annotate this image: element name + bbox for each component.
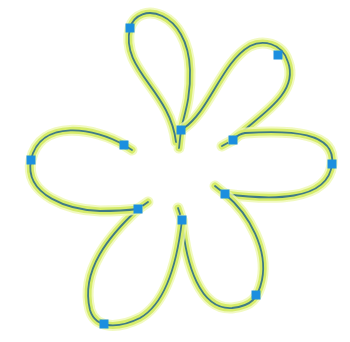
control-point-inner-upper-right[interactable] bbox=[229, 136, 238, 145]
control-point-inner-bottom-left[interactable] bbox=[134, 205, 143, 214]
control-point-inner-top[interactable] bbox=[177, 126, 186, 135]
petal-glow-outer bbox=[178, 194, 263, 308]
petal-curve[interactable] bbox=[88, 202, 182, 325]
flower-diagram bbox=[0, 0, 350, 342]
control-point-outer-right[interactable] bbox=[328, 160, 337, 169]
control-point-inner-bottom-right[interactable] bbox=[178, 216, 187, 225]
control-point-outer-bottom-right[interactable] bbox=[252, 291, 261, 300]
control-point-inner-left[interactable] bbox=[120, 141, 129, 150]
petal-bottom-right bbox=[178, 194, 263, 308]
petals-group bbox=[30, 13, 332, 325]
control-point-outer-bottom-left[interactable] bbox=[100, 320, 109, 329]
control-point-outer-top[interactable] bbox=[126, 24, 135, 33]
control-point-outer-left[interactable] bbox=[27, 156, 36, 165]
petal-glow-outer bbox=[88, 202, 182, 325]
control-point-inner-right[interactable] bbox=[221, 190, 230, 199]
petal-bottom-left bbox=[88, 202, 182, 325]
petal-glow bbox=[88, 202, 182, 325]
control-point-outer-upper-right[interactable] bbox=[274, 51, 283, 60]
